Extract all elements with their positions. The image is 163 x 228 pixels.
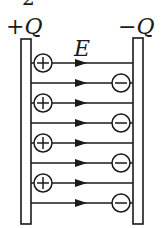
- negative-charge-icon: [112, 114, 130, 132]
- arrow-right-icon: [75, 59, 87, 67]
- arrow-right-icon: [75, 159, 87, 167]
- positive-charge-icon: [34, 94, 52, 112]
- arrow-right-icon: [75, 139, 87, 147]
- field-line: [31, 74, 133, 92]
- capacitor-diagram: [0, 0, 163, 228]
- field-line: [31, 54, 133, 72]
- field-lines: [31, 54, 133, 212]
- field-line: [31, 194, 133, 212]
- negative-charge-icon: [112, 194, 130, 212]
- arrow-right-icon: [75, 79, 87, 87]
- negative-charge-icon: [112, 154, 130, 172]
- field-line: [31, 174, 133, 192]
- field-line: [31, 94, 133, 112]
- negative-plate: [133, 38, 143, 224]
- arrow-right-icon: [75, 199, 87, 207]
- field-line: [31, 114, 133, 132]
- arrow-right-icon: [75, 179, 87, 187]
- positive-charge-icon: [34, 134, 52, 152]
- positive-plate: [21, 39, 31, 224]
- field-line: [31, 134, 133, 152]
- arrow-right-icon: [75, 119, 87, 127]
- positive-charge-icon: [34, 54, 52, 72]
- field-line: [31, 154, 133, 172]
- positive-charge-icon: [34, 174, 52, 192]
- arrow-right-icon: [75, 99, 87, 107]
- negative-charge-icon: [112, 74, 130, 92]
